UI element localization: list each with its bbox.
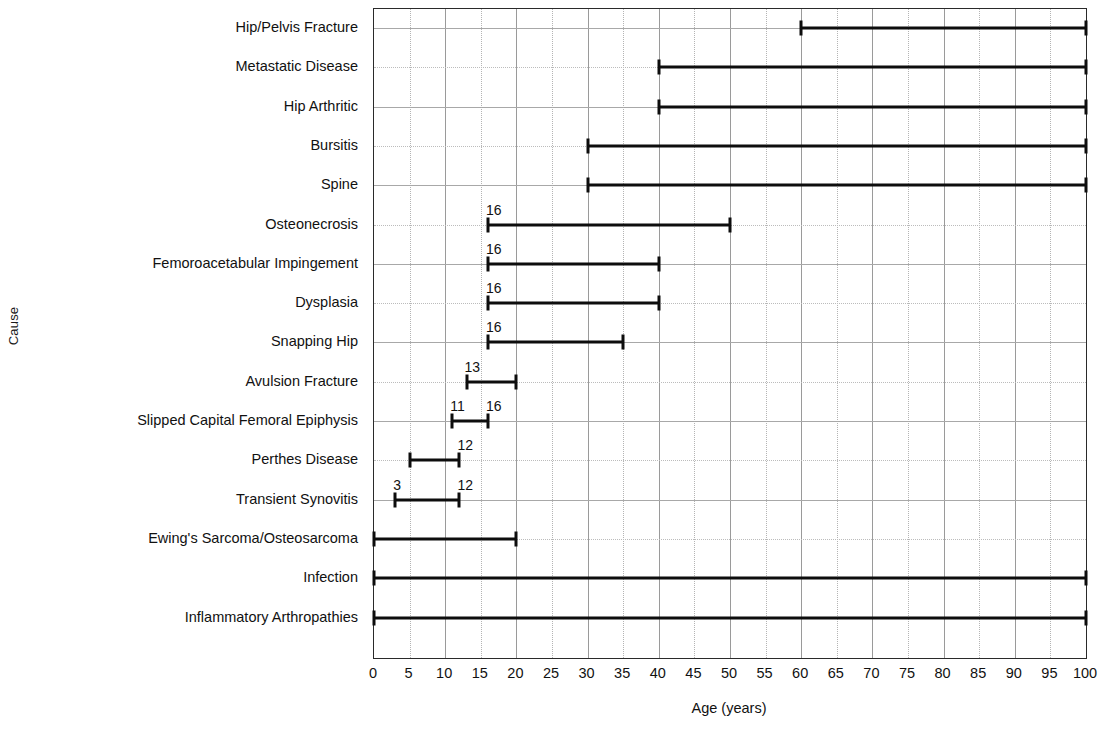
category-label: Osteonecrosis — [0, 216, 358, 232]
range-endpoint-cap — [1085, 138, 1088, 153]
category-label: Infection — [0, 569, 358, 585]
range-bar — [488, 223, 730, 226]
x-tick-label: 55 — [757, 664, 773, 682]
range-endpoint-cap — [1085, 99, 1088, 114]
range-endpoint-cap — [1085, 571, 1088, 586]
range-bar — [395, 498, 459, 501]
category-label: Spine — [0, 176, 358, 192]
range-value-label: 12 — [457, 478, 473, 492]
range-endpoint-cap — [486, 335, 489, 350]
x-axis-title: Age (years) — [373, 700, 1085, 716]
range-endpoint-cap — [586, 178, 589, 193]
range-bar — [374, 577, 1086, 580]
category-label: Snapping Hip — [0, 333, 358, 349]
x-tick-label: 40 — [650, 664, 666, 682]
category-label: Metastatic Disease — [0, 58, 358, 74]
range-endpoint-cap — [1085, 610, 1088, 625]
x-tick-label: 85 — [970, 664, 986, 682]
x-tick-label: 100 — [1073, 664, 1097, 682]
range-value-label: 13 — [465, 360, 481, 374]
x-tick-label: 60 — [792, 664, 808, 682]
plot-area: 1616161613111612312 — [373, 8, 1087, 659]
range-bar — [588, 184, 1086, 187]
x-tick-label: 80 — [935, 664, 951, 682]
x-tick-label: 95 — [1041, 664, 1057, 682]
x-tick-label: 65 — [828, 664, 844, 682]
range-bar — [374, 616, 1086, 619]
category-label: Ewing's Sarcoma/Osteosarcoma — [0, 530, 358, 546]
x-tick-label: 0 — [369, 664, 377, 682]
range-bar — [659, 66, 1086, 69]
range-endpoint-cap — [486, 217, 489, 232]
x-tick-label: 45 — [685, 664, 701, 682]
x-tick-label: 75 — [899, 664, 915, 682]
range-endpoint-cap — [586, 138, 589, 153]
range-endpoint-cap — [486, 256, 489, 271]
range-endpoint-cap — [458, 492, 461, 507]
category-label: Inflammatory Arthropathies — [0, 609, 358, 625]
x-tick-label: 25 — [543, 664, 559, 682]
range-value-label: 11 — [450, 399, 465, 413]
category-label: Hip Arthritic — [0, 98, 358, 114]
x-tick-label: 5 — [405, 664, 413, 682]
range-value-label: 16 — [486, 399, 502, 413]
range-endpoint-cap — [1085, 21, 1088, 36]
range-value-label: 3 — [393, 478, 401, 492]
x-tick-label: 70 — [863, 664, 879, 682]
x-axis-tick-labels: 0510152025303540455055606570758085909510… — [373, 664, 1085, 684]
range-endpoint-cap — [451, 414, 454, 429]
range-bar — [467, 380, 517, 383]
range-endpoint-cap — [657, 99, 660, 114]
x-tick-label: 20 — [507, 664, 523, 682]
range-value-label: 16 — [486, 320, 502, 334]
range-endpoint-cap — [458, 453, 461, 468]
range-endpoint-cap — [373, 610, 376, 625]
range-endpoint-cap — [729, 217, 732, 232]
range-endpoint-cap — [408, 453, 411, 468]
category-label: Perthes Disease — [0, 451, 358, 467]
range-endpoint-cap — [1085, 178, 1088, 193]
range-endpoint-cap — [486, 296, 489, 311]
range-endpoint-cap — [1085, 60, 1088, 75]
range-value-label: 16 — [486, 281, 502, 295]
range-bar — [452, 420, 488, 423]
range-endpoint-cap — [373, 571, 376, 586]
range-endpoint-cap — [657, 296, 660, 311]
x-tick-label: 35 — [614, 664, 630, 682]
category-label: Bursitis — [0, 137, 358, 153]
range-endpoint-cap — [800, 21, 803, 36]
category-label: Femoroacetabular Impingement — [0, 255, 358, 271]
range-endpoint-cap — [622, 335, 625, 350]
x-tick-label: 90 — [1006, 664, 1022, 682]
range-bar — [488, 262, 659, 265]
range-endpoint-cap — [373, 531, 376, 546]
range-bar — [801, 27, 1086, 30]
x-tick-label: 30 — [579, 664, 595, 682]
range-endpoint-cap — [515, 374, 518, 389]
range-endpoint-cap — [515, 531, 518, 546]
range-bar — [488, 341, 623, 344]
category-label: Hip/Pelvis Fracture — [0, 19, 358, 35]
range-endpoint-cap — [657, 60, 660, 75]
range-bar — [659, 105, 1086, 108]
range-endpoint-cap — [657, 256, 660, 271]
range-value-label: 12 — [457, 438, 473, 452]
range-value-label: 16 — [486, 203, 502, 217]
category-label: Dysplasia — [0, 294, 358, 310]
range-value-label: 16 — [486, 242, 502, 256]
category-axis-labels: Hip/Pelvis FractureMetastatic DiseaseHip… — [0, 0, 366, 660]
category-label: Avulsion Fracture — [0, 373, 358, 389]
range-endpoint-cap — [465, 374, 468, 389]
x-tick-label: 10 — [436, 664, 452, 682]
range-endpoint-cap — [394, 492, 397, 507]
range-bar — [410, 459, 460, 462]
range-bar — [488, 302, 659, 305]
x-tick-label: 50 — [721, 664, 737, 682]
category-label: Transient Synovitis — [0, 491, 358, 507]
range-endpoint-cap — [486, 414, 489, 429]
x-tick-label: 15 — [472, 664, 488, 682]
category-label: Slipped Capital Femoral Epiphysis — [0, 412, 358, 428]
range-chart: Cause Hip/Pelvis FractureMetastatic Dise… — [0, 0, 1120, 746]
range-bar — [588, 144, 1086, 147]
range-bars: 1616161613111612312 — [374, 9, 1086, 658]
